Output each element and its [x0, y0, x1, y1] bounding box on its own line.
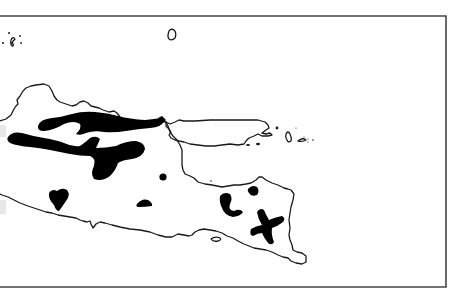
nusa-barung-island	[211, 237, 221, 241]
distribution-patches	[7, 112, 284, 245]
sapudi-island	[286, 132, 292, 142]
patch-dot	[159, 173, 166, 180]
patch-east-small	[248, 186, 259, 196]
scan-artifact	[0, 200, 6, 214]
bawean-island	[168, 29, 176, 40]
java-mainland-coast	[0, 84, 306, 264]
patch-triangle	[136, 200, 152, 208]
map-canvas	[0, 0, 464, 299]
patch-central-band	[7, 133, 145, 181]
madura-south-islets	[210, 143, 260, 182]
madura-island-coast	[166, 120, 272, 146]
map-figure	[0, 0, 464, 299]
scan-artifact	[0, 125, 6, 137]
kangean-islets	[276, 127, 314, 143]
patch-heart	[49, 189, 69, 211]
patch-east-cross	[250, 209, 284, 244]
patch-north-band	[38, 112, 164, 135]
karimunjawa-islets	[2, 32, 22, 46]
patch-east-hook	[220, 193, 243, 217]
